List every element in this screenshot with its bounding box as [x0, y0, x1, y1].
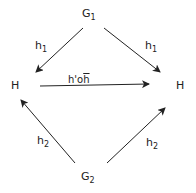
edge-label-top-right: h1 [145, 40, 157, 55]
arrow-g2-to-left-h [21, 100, 75, 163]
composition-right: h [83, 74, 89, 85]
edge-label-bottom-right: h2 [146, 137, 158, 152]
node-h-right-label: H [176, 79, 184, 92]
edge-label-sub: 1 [152, 45, 157, 54]
edge-label-horizontal: h'oh [68, 74, 90, 85]
edge-label-base: h [35, 39, 42, 52]
node-g1-sub: 1 [91, 13, 96, 22]
edge-label-top-left: h1 [35, 40, 47, 55]
edge-label-base: h [146, 136, 153, 149]
node-g2-sub: 2 [90, 176, 95, 185]
edge-label-base: h [145, 39, 152, 52]
node-g2-base: G [81, 170, 90, 183]
composition-left: h' [68, 74, 77, 85]
node-h-left-label: H [11, 79, 19, 92]
arrows [0, 0, 196, 193]
node-g1-base: G [82, 7, 91, 20]
edge-label-sub: 1 [42, 45, 47, 54]
node-h-right: H [176, 80, 184, 91]
edge-label-sub: 2 [44, 140, 49, 149]
arrow-left-h-to-right-h [40, 84, 149, 86]
node-g2: G2 [81, 171, 95, 186]
edge-label-bottom-left: h2 [37, 135, 49, 150]
node-g1: G1 [82, 8, 96, 23]
arrow-g2-to-right-h [107, 108, 165, 163]
node-h-left: H [11, 80, 19, 91]
edge-label-sub: 2 [153, 142, 158, 151]
commutative-diagram: G1 H H G2 h1 h1 h2 h2 h'oh [0, 0, 196, 193]
edge-label-base: h [37, 134, 44, 147]
